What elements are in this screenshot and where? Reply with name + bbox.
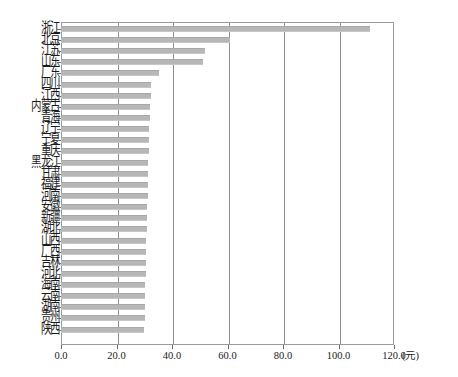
y-tick-mark bbox=[57, 73, 61, 74]
bar bbox=[61, 148, 149, 154]
bar bbox=[61, 137, 149, 143]
y-tick-mark bbox=[57, 252, 61, 253]
x-tick-mark bbox=[339, 345, 340, 349]
bar bbox=[61, 193, 148, 199]
bar bbox=[61, 282, 145, 288]
bar bbox=[61, 204, 147, 210]
y-tick-mark bbox=[57, 241, 61, 242]
y-tick-mark bbox=[57, 85, 61, 86]
y-tick-mark bbox=[57, 174, 61, 175]
y-tick-mark bbox=[57, 196, 61, 197]
y-tick-mark bbox=[57, 218, 61, 219]
x-tick-mark bbox=[61, 345, 62, 349]
bar bbox=[61, 327, 144, 333]
bar bbox=[61, 238, 146, 244]
bar bbox=[61, 293, 145, 299]
x-tick-label: 40.0 bbox=[163, 350, 181, 362]
x-tick-label: 80.0 bbox=[274, 350, 292, 362]
y-tick-mark bbox=[57, 107, 61, 108]
x-tick-mark bbox=[117, 345, 118, 349]
bar bbox=[61, 37, 230, 43]
x-tick-mark bbox=[283, 345, 284, 349]
y-tick-mark bbox=[57, 330, 61, 331]
y-tick-mark bbox=[57, 118, 61, 119]
bar bbox=[61, 104, 150, 110]
x-tick-label: 100.0 bbox=[327, 350, 351, 362]
bar bbox=[61, 304, 145, 310]
bar bbox=[61, 260, 146, 266]
x-tick-mark bbox=[394, 345, 395, 349]
bar bbox=[61, 93, 151, 99]
x-tick-label: 0.0 bbox=[54, 350, 67, 362]
bar bbox=[61, 315, 145, 321]
bar bbox=[61, 59, 203, 65]
x-tick-mark bbox=[228, 345, 229, 349]
x-axis-unit-label: (元) bbox=[402, 350, 419, 362]
y-tick-mark bbox=[57, 185, 61, 186]
y-tick-mark bbox=[57, 29, 61, 30]
y-tick-mark bbox=[57, 140, 61, 141]
y-tick-mark bbox=[57, 40, 61, 41]
y-tick-mark bbox=[57, 285, 61, 286]
x-tick-mark bbox=[172, 345, 173, 349]
bars-layer bbox=[61, 22, 394, 345]
y-tick-mark bbox=[57, 129, 61, 130]
y-tick-mark bbox=[57, 163, 61, 164]
bar bbox=[61, 249, 146, 255]
bar bbox=[61, 226, 147, 232]
y-tick-mark bbox=[57, 151, 61, 152]
bar bbox=[61, 26, 370, 32]
y-tick-mark bbox=[57, 229, 61, 230]
y-tick-mark bbox=[57, 263, 61, 264]
bar-chart: 浙江北京江苏山东广东四川江西内蒙古青海辽宁宁夏重庆黑龙江甘肃福建河南安徽新疆湖北… bbox=[0, 0, 458, 377]
y-tick-mark bbox=[57, 62, 61, 63]
x-tick-label: 60.0 bbox=[218, 350, 236, 362]
bar bbox=[61, 271, 146, 277]
bar bbox=[61, 70, 159, 76]
y-tick-mark bbox=[57, 296, 61, 297]
y-tick-mark bbox=[57, 307, 61, 308]
bar bbox=[61, 171, 148, 177]
y-tick-mark bbox=[57, 274, 61, 275]
y-tick-mark bbox=[57, 51, 61, 52]
bar bbox=[61, 160, 148, 166]
x-tick-label: 20.0 bbox=[107, 350, 125, 362]
bar bbox=[61, 126, 149, 132]
bar bbox=[61, 48, 205, 54]
bar bbox=[61, 115, 150, 121]
bar bbox=[61, 82, 151, 88]
y-tick-mark bbox=[57, 96, 61, 97]
bar bbox=[61, 182, 148, 188]
y-tick-mark bbox=[57, 318, 61, 319]
y-tick-mark bbox=[57, 207, 61, 208]
bar bbox=[61, 215, 147, 221]
